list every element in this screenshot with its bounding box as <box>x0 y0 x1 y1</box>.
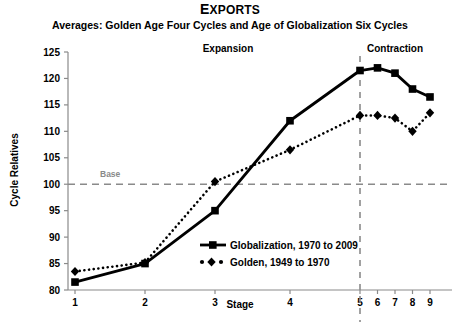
base-reference-line-label: Base <box>100 169 121 179</box>
legend-item-golden-label: Golden, 1949 to 1970 <box>230 257 330 268</box>
expansion-zone-label: Expansion <box>203 43 254 54</box>
y-axis-tick-label: 85 <box>49 258 61 269</box>
x-axis-tick-label: 2 <box>142 297 148 308</box>
contraction-zone-label: Contraction <box>367 43 423 54</box>
x-axis-tick-label: 1 <box>72 297 78 308</box>
series-globalization-marker <box>409 85 417 93</box>
series-globalization-marker <box>391 69 399 77</box>
legend-golden-marker-swatch <box>207 257 215 266</box>
chart-title: EXPORTS <box>200 1 260 17</box>
x-axis-tick-label: 3 <box>212 297 218 308</box>
y-axis-tick-label: 80 <box>49 285 61 296</box>
y-axis-tick-label: 95 <box>49 205 61 216</box>
series-golden-marker <box>356 111 364 120</box>
y-axis-tick-label: 120 <box>43 73 60 84</box>
series-globalization-marker <box>374 64 382 72</box>
series-golden-marker <box>373 111 381 120</box>
series-globalization-marker <box>141 260 149 268</box>
x-axis-tick-label: 6 <box>375 297 381 308</box>
series-globalization-marker <box>286 117 294 125</box>
y-axis-tick-label: 105 <box>43 152 60 163</box>
legend-globalization-marker-swatch <box>209 241 217 249</box>
legend-golden-dot-swatch <box>219 260 223 264</box>
series-globalization-marker <box>211 207 219 215</box>
series-golden-marker <box>426 108 434 117</box>
series-globalization-marker <box>356 67 364 75</box>
series-golden-marker <box>286 145 294 154</box>
x-axis-tick-label: 7 <box>392 297 398 308</box>
series-globalization-marker <box>71 278 79 286</box>
x-axis-tick-label: 8 <box>410 297 416 308</box>
legend-item-globalization-label: Globalization, 1970 to 2009 <box>230 240 358 251</box>
y-axis-tick-label: 90 <box>49 232 61 243</box>
y-axis-tick-label: 110 <box>44 126 61 137</box>
y-axis-title: Cycle Relatives <box>9 133 20 207</box>
y-axis-tick-label: 115 <box>44 99 61 110</box>
series-golden-marker <box>71 267 79 276</box>
x-axis-tick-label: 9 <box>427 297 433 308</box>
chart-canvas: EXPORTSAverages: Golden Age Four Cycles … <box>0 0 460 326</box>
y-axis-tick-label: 125 <box>43 47 60 58</box>
chart-subtitle: Averages: Golden Age Four Cycles and Age… <box>52 19 408 31</box>
x-axis-tick-label: 4 <box>287 297 293 308</box>
exports-chart: EXPORTSAverages: Golden Age Four Cycles … <box>0 0 460 326</box>
series-globalization-marker <box>426 93 434 101</box>
y-axis-tick-label: 100 <box>43 179 60 190</box>
legend-golden-dot-swatch <box>200 260 204 264</box>
x-axis-title: Stage <box>226 299 254 310</box>
